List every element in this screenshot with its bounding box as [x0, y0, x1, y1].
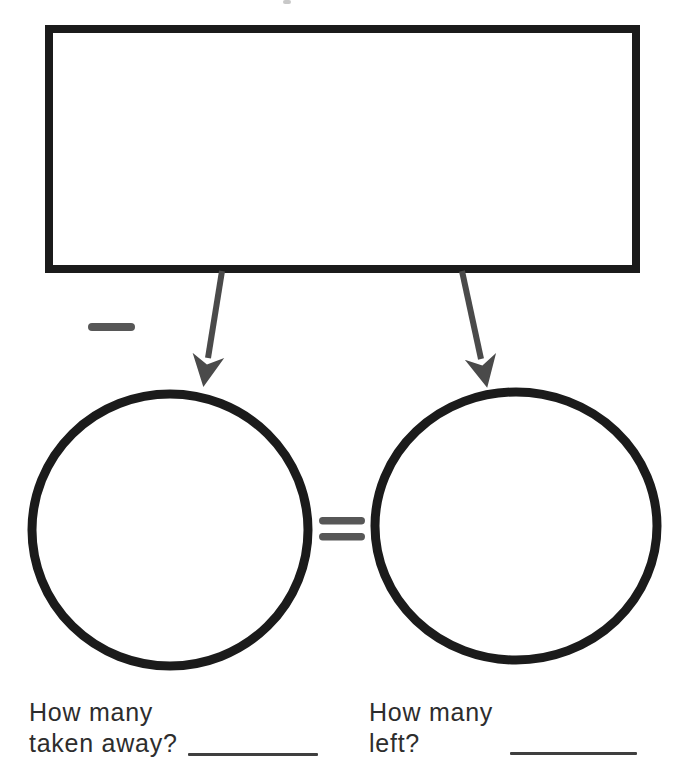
question-taken-away-line2: taken away? — [29, 728, 178, 759]
minus-icon — [88, 323, 135, 331]
worksheet-diagram — [0, 0, 687, 764]
question-taken-away: How many taken away? — [29, 697, 178, 759]
total-box[interactable] — [49, 29, 636, 269]
taken-away-circle[interactable] — [32, 394, 308, 666]
question-left-over-line2: left? — [369, 728, 493, 759]
arrow-to-left-circle-icon — [208, 271, 222, 358]
print-artifact — [283, 0, 291, 4]
question-taken-away-line1: How many — [29, 697, 178, 728]
answer-blank-taken-away[interactable] — [188, 753, 318, 756]
question-left-over-line1: How many — [369, 697, 493, 728]
subtraction-worksheet: How many taken away? How many left? — [0, 0, 687, 764]
answer-blank-left-over[interactable] — [510, 752, 637, 755]
arrow-to-right-circle-icon — [462, 271, 481, 359]
question-left-over: How many left? — [369, 697, 493, 759]
equals-icon — [319, 517, 365, 541]
left-over-circle[interactable] — [375, 392, 657, 660]
